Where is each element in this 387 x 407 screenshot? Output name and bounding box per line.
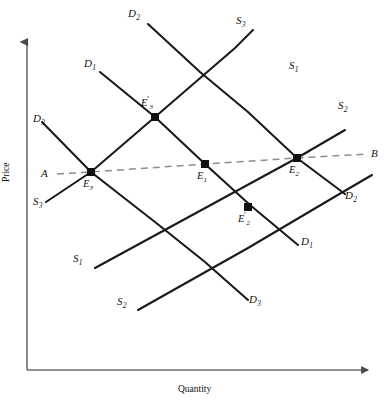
curve-label-s1-bottom: S1 — [73, 253, 82, 264]
equilibrium-point-e2-prime — [244, 203, 252, 211]
supply-demand-figure: D2 S3 D1 S1 S2 D3 S3 D2 D1 S1 S2 D3 A B — [0, 0, 387, 407]
demand-curve-d3 — [42, 122, 248, 300]
curve-label-s3-top: S3 — [236, 15, 245, 26]
demand-curve-d1 — [100, 72, 298, 245]
plot-canvas — [0, 0, 387, 407]
equilibrium-label-e3-prime: E′3 — [141, 98, 153, 109]
curve-label-d1-top: D1 — [84, 58, 96, 69]
supply-curve-s2 — [138, 175, 372, 310]
supply-curve-s1 — [95, 130, 345, 268]
curve-label-s3-left: S3 — [33, 196, 42, 207]
equilibrium-point-e1 — [201, 160, 209, 168]
curve-label-d3-left: D3 — [33, 113, 45, 124]
curve-label-s1-top: S1 — [289, 60, 298, 71]
curve-label-d2-top: D2 — [128, 8, 140, 19]
curve-label-d1-right: D1 — [301, 236, 313, 247]
curve-label-s2-bottom: S2 — [117, 296, 126, 307]
supply-curve-s3 — [46, 30, 253, 202]
curve-label-s2-top: S2 — [338, 100, 347, 111]
equilibrium-point-e3-prime — [151, 113, 159, 121]
equilibrium-point-e3 — [87, 168, 95, 176]
axis-group — [27, 42, 368, 370]
point-label-a: A — [41, 168, 48, 179]
equilibrium-label-e2-prime: E′2 — [238, 214, 250, 225]
curve-label-d3-bottom: D3 — [249, 294, 261, 305]
x-axis-title: Quantity — [178, 385, 211, 395]
y-axis-title: Price — [2, 162, 12, 182]
equilibrium-point-e2 — [293, 154, 301, 162]
equilibrium-markers — [87, 113, 301, 211]
equilibrium-label-e1: E1 — [197, 171, 207, 182]
demand-curve-d2 — [148, 24, 345, 194]
curve-label-d2-right: D2 — [345, 190, 357, 201]
equilibrium-label-e3: E3 — [83, 179, 93, 190]
equilibrium-label-e2: E2 — [289, 165, 299, 176]
point-label-b: B — [371, 148, 378, 159]
